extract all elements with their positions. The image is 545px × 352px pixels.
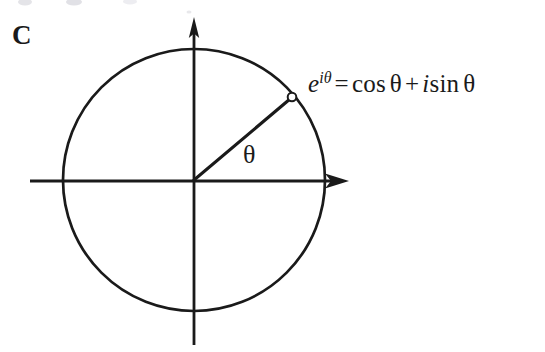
cosine-function: cos bbox=[352, 70, 386, 97]
scan-artifacts bbox=[18, 0, 192, 14]
euler-base: e bbox=[308, 70, 319, 97]
plus-sign: + bbox=[402, 70, 422, 97]
angle-theta-label: θ bbox=[243, 140, 255, 170]
cosine-argument: θ bbox=[386, 70, 402, 97]
euler-exponent: iθ bbox=[319, 69, 331, 86]
equals-sign: = bbox=[332, 70, 352, 97]
complex-plane-unit-circle-figure bbox=[0, 0, 545, 352]
radius-vector bbox=[194, 99, 290, 180]
sine-function: sin bbox=[430, 70, 460, 97]
panel-label-c: C bbox=[12, 20, 52, 50]
point-marker-on-circle bbox=[288, 93, 297, 102]
sine-argument: θ bbox=[459, 70, 475, 97]
euler-formula-label: eiθ=cosθ+isinθ bbox=[308, 62, 475, 100]
real-axis bbox=[30, 174, 349, 189]
imaginary-unit: i bbox=[422, 70, 429, 97]
